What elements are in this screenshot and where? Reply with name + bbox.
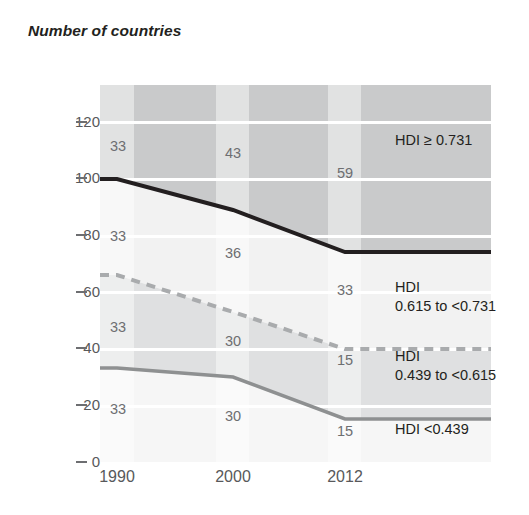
y-tick-mark-40 <box>76 347 87 349</box>
y-axis: 120 100 80 60 40 20 0 <box>22 0 100 515</box>
value-label-1990-upper-mid: 33 <box>101 229 135 244</box>
y-tick-mark-100 <box>76 177 87 179</box>
value-label-2012-bottom: 15 <box>328 424 362 439</box>
x-tick-label-2012: 2012 <box>305 468 385 486</box>
x-tick-label-2000: 2000 <box>193 468 273 486</box>
x-tick-label-1990: 1990 <box>77 468 157 486</box>
legend-item-hdi-high: HDI ≥ 0.731 <box>395 131 472 150</box>
value-label-2000-bottom: 30 <box>216 409 250 424</box>
value-label-1990-bottom: 33 <box>101 402 135 417</box>
value-label-2012-upper-mid: 33 <box>328 283 362 298</box>
value-label-2012-lower-mid: 15 <box>328 353 362 368</box>
legend-item-hdi-upper-mid: HDI 0.615 to <0.731 <box>395 278 496 316</box>
y-tick-mark-120 <box>76 121 87 123</box>
chart-root: Number of countries 120 100 80 60 40 20 … <box>0 0 529 515</box>
y-tick-mark-80 <box>76 234 87 236</box>
value-label-2000-upper-mid: 36 <box>216 246 250 261</box>
value-label-2012-top: 59 <box>328 166 362 181</box>
legend-item-hdi-low: HDI <0.439 <box>395 420 469 439</box>
legend-item-hdi-lower-mid: HDI 0.439 to <0.615 <box>395 347 496 385</box>
value-label-1990-top: 33 <box>101 139 135 154</box>
y-tick-mark-0 <box>76 461 87 463</box>
value-label-2000-lower-mid: 30 <box>216 334 250 349</box>
y-tick-mark-60 <box>76 291 87 293</box>
y-tick-mark-20 <box>76 404 87 406</box>
value-label-2000-top: 43 <box>216 146 250 161</box>
value-label-1990-lower-mid: 33 <box>101 320 135 335</box>
